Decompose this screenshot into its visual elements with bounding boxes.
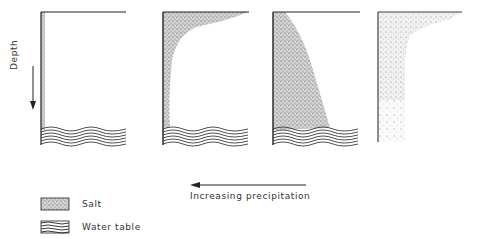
water-table-2 <box>163 127 248 146</box>
depth-label: Depth <box>9 40 19 70</box>
water-table-3 <box>273 127 358 146</box>
legend-salt-swatch <box>41 198 69 210</box>
panel-1 <box>41 12 126 146</box>
precipitation-label: Increasing precipitation <box>190 191 310 201</box>
panel-3 <box>273 12 360 146</box>
water-table-1 <box>41 127 126 146</box>
legend-water-label: Water table <box>82 222 141 232</box>
legend-water-swatch <box>41 221 69 233</box>
salt-profile-diagram <box>0 0 481 239</box>
legend-salt-label: Salt <box>82 199 102 209</box>
panel-2 <box>163 12 249 146</box>
panel-4 <box>378 12 462 142</box>
precipitation-arrow <box>190 182 306 188</box>
depth-arrow <box>30 66 36 110</box>
